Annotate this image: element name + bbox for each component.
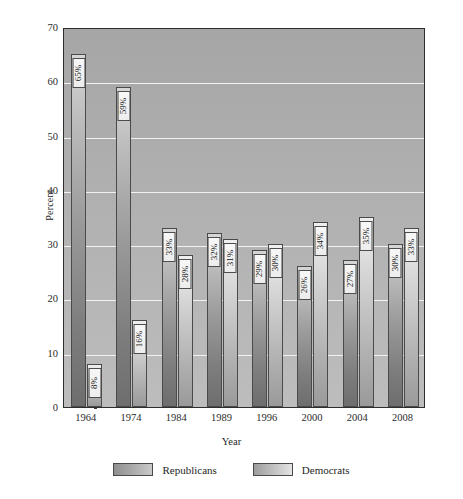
chart-legend: RepublicansDemocrats xyxy=(0,463,463,476)
x-axis-ticks: 19641974198419891996200020042008 xyxy=(63,412,425,428)
bar-value-text: 31% xyxy=(226,249,235,266)
x-tick-label-1964: 1964 xyxy=(75,412,96,423)
bar-value-label: 8% xyxy=(88,368,101,398)
bar-value-text: 34% xyxy=(316,233,325,250)
bar-value-label: 30% xyxy=(389,248,402,278)
x-tick-label-2004: 2004 xyxy=(347,412,368,423)
bar-value-text: 33% xyxy=(407,239,416,256)
x-axis-title: Year xyxy=(0,436,463,447)
bar-republicans-1984: 33% xyxy=(162,228,177,407)
y-tick-label: 0 xyxy=(32,403,58,413)
bar-democrats-2000: 34% xyxy=(313,222,328,407)
bar-value-label: 30% xyxy=(269,248,282,278)
legend-label-republicans: Republicans xyxy=(162,464,216,476)
bar-democrats-1974: 16% xyxy=(132,320,147,407)
bar-value-text: 59% xyxy=(119,97,128,114)
bar-value-text: 26% xyxy=(300,277,309,294)
bar-democrats-1964: 8% xyxy=(87,364,102,407)
bar-democrats-1984: 28% xyxy=(178,255,193,407)
x-tick-label-1984: 1984 xyxy=(166,412,187,423)
x-tick-label-1974: 1974 xyxy=(120,412,141,423)
x-tick-label-2008: 2008 xyxy=(392,412,413,423)
bar-value-text: 32% xyxy=(210,244,219,261)
x-tick-label-1996: 1996 xyxy=(256,412,277,423)
legend-label-democrats: Democrats xyxy=(302,464,350,476)
y-tick-label: 40 xyxy=(32,186,58,196)
legend-swatch-republicans xyxy=(113,463,153,476)
bar-republicans-2000: 26% xyxy=(297,266,312,407)
legend-swatch-democrats xyxy=(253,463,293,476)
bar-republicans-2008: 30% xyxy=(388,244,403,407)
bar-value-label: 27% xyxy=(344,264,357,294)
bar-value-text: 16% xyxy=(135,331,144,348)
bars-layer: 65%8%59%16%33%28%32%31%29%30%26%34%27%35… xyxy=(64,29,424,407)
bar-democrats-1996: 30% xyxy=(268,244,283,407)
bar-value-text: 33% xyxy=(165,239,174,256)
y-tick-label: 10 xyxy=(32,349,58,359)
plot-area: 65%8%59%16%33%28%32%31%29%30%26%34%27%35… xyxy=(63,28,425,408)
y-tick-label: 70 xyxy=(32,23,58,33)
bar-value-text: 35% xyxy=(362,228,371,245)
bar-democrats-2004: 35% xyxy=(359,217,374,407)
bar-value-text: 65% xyxy=(74,65,83,82)
bar-value-text: 27% xyxy=(346,271,355,288)
legend-item-democrats[interactable]: Democrats xyxy=(253,463,350,476)
bar-value-label: 29% xyxy=(253,254,266,284)
bar-value-text: 28% xyxy=(181,266,190,283)
y-axis-ticks: 706050403020100 xyxy=(32,28,58,408)
y-tick-label: 20 xyxy=(32,294,58,304)
bar-value-label: 33% xyxy=(405,232,418,262)
bar-value-label: 32% xyxy=(208,237,221,267)
bar-value-label: 59% xyxy=(117,91,130,121)
bar-value-text: 29% xyxy=(255,260,264,277)
y-tick-label: 50 xyxy=(32,132,58,142)
bar-republicans-1964: 65% xyxy=(71,54,86,407)
bar-value-label: 28% xyxy=(179,259,192,289)
legend-item-republicans[interactable]: Republicans xyxy=(113,463,216,476)
bar-value-text: 30% xyxy=(271,255,280,272)
bar-value-text: 30% xyxy=(391,255,400,272)
bar-republicans-1989: 32% xyxy=(207,233,222,407)
bar-chart: Percent 706050403020100 65%8%59%16%33%28… xyxy=(0,0,463,499)
bar-republicans-1974: 59% xyxy=(116,87,131,407)
x-tick-label-1989: 1989 xyxy=(211,412,232,423)
bar-value-label: 26% xyxy=(298,270,311,300)
bar-value-label: 65% xyxy=(72,58,85,88)
bar-republicans-2004: 27% xyxy=(343,260,358,407)
y-tick-label: 30 xyxy=(32,240,58,250)
bar-democrats-2008: 33% xyxy=(404,228,419,407)
bar-value-label: 35% xyxy=(360,221,373,251)
bar-value-label: 16% xyxy=(133,324,146,354)
bar-democrats-1989: 31% xyxy=(223,239,238,407)
bar-value-label: 34% xyxy=(314,226,327,256)
bar-republicans-1996: 29% xyxy=(252,250,267,407)
y-tick-label: 60 xyxy=(32,77,58,87)
bar-value-text: 8% xyxy=(90,377,99,389)
bar-value-label: 33% xyxy=(163,232,176,262)
bar-value-label: 31% xyxy=(224,243,237,273)
x-tick-label-2000: 2000 xyxy=(301,412,322,423)
